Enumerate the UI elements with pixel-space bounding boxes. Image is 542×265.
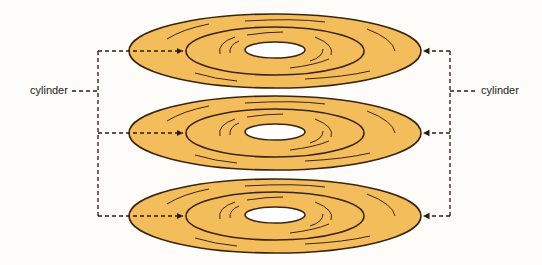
cylinder-label-right: cylinder bbox=[481, 84, 519, 96]
platter-middle bbox=[129, 96, 421, 170]
cylinder-label-left: cylinder bbox=[30, 84, 68, 96]
disk-cylinder-diagram bbox=[0, 0, 542, 265]
platter-top bbox=[129, 14, 421, 88]
right-cylinder-leader bbox=[423, 51, 476, 216]
platter-bottom bbox=[129, 179, 421, 253]
